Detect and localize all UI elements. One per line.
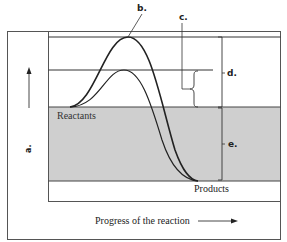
d-bracket-icon xyxy=(218,37,222,107)
label-c: c. xyxy=(179,12,188,22)
energy-diagram: b. c. d. e. Reactants Products a. Progre… xyxy=(0,0,287,242)
x-axis-arrow-icon xyxy=(231,219,238,224)
y-axis-arrow-icon xyxy=(27,67,32,74)
b-leader-line xyxy=(128,14,142,37)
c-leader-line xyxy=(182,23,190,89)
c-brace-icon xyxy=(190,71,198,107)
label-a: a. xyxy=(24,145,33,153)
products-label: Products xyxy=(194,183,229,194)
x-axis-label: Progress of the reaction xyxy=(95,215,190,226)
reactants-label: Reactants xyxy=(57,110,96,121)
label-b: b. xyxy=(137,3,147,13)
label-d: d. xyxy=(227,68,237,78)
label-e: e. xyxy=(228,139,238,149)
